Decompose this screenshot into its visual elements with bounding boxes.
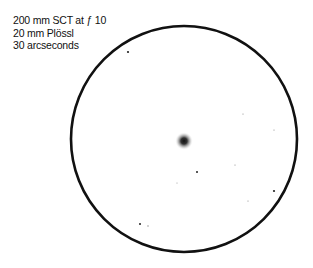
star	[242, 113, 243, 114]
star	[147, 225, 148, 226]
globular-cluster	[175, 132, 193, 150]
star	[273, 129, 274, 130]
star	[139, 223, 141, 225]
star	[247, 200, 248, 201]
star-field	[127, 51, 275, 227]
star	[234, 164, 235, 165]
star	[196, 171, 198, 173]
eyepiece-field	[0, 0, 313, 268]
star	[127, 51, 129, 53]
star	[177, 183, 178, 184]
star	[273, 190, 275, 192]
